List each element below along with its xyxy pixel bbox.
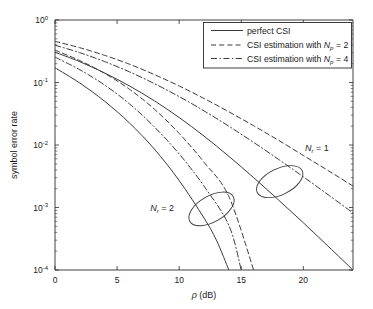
y-tick-exponent-0: 0 [45, 15, 49, 21]
y-tick-base-4: 10 [33, 265, 43, 275]
legend-label-2: CSI estimation with Np = 4 [247, 54, 348, 65]
x-tick-label-3: 15 [237, 275, 247, 285]
y-tick-base-0: 10 [35, 15, 45, 25]
y-tick-base-1: 10 [33, 78, 43, 88]
legend-suffix-2: = 4 [334, 54, 349, 64]
y-axis-label: symbol error rate [9, 111, 19, 179]
y-tick-label-4: 10-4 [33, 265, 48, 276]
y-tick-exponent-3: -3 [43, 202, 49, 208]
y-axis-tick-labels: 10010-110-210-310-4 [33, 15, 48, 276]
y-tick-label-1: 10-1 [33, 77, 48, 88]
chart-figure: 05101520 10010-110-210-310-4 ρ (dB) symb… [0, 0, 373, 309]
y-tick-label-2: 10-2 [33, 140, 48, 151]
y-tick-exponent-4: -4 [43, 265, 49, 271]
annotation-rest-nr-1: = 1 [314, 143, 329, 153]
y-tick-label-0: 100 [35, 15, 48, 26]
legend-suffix-1: = 2 [334, 40, 349, 50]
x-tick-label-2: 10 [174, 275, 184, 285]
legend: perfect CSICSI estimation with Np = 2CSI… [204, 23, 352, 69]
symbol-error-rate-plot: 05101520 10010-110-210-310-4 ρ (dB) symb… [0, 0, 373, 309]
annotation-rest-nr-2: = 2 [159, 203, 174, 213]
legend-text-1: CSI estimation with [247, 40, 324, 50]
x-tick-label-0: 0 [53, 275, 58, 285]
legend-text-0: perfect CSI [247, 26, 290, 36]
y-tick-exponent-2: -2 [43, 140, 49, 146]
svg-text:ρ (dB): ρ (dB) [191, 290, 217, 300]
x-axis-title: ρ (dB) [191, 290, 217, 300]
x-tick-label-1: 5 [115, 275, 120, 285]
annotation-label-nr-1: Nr = 1 [305, 143, 329, 154]
annotation-label-nr-2: Nr = 2 [150, 203, 174, 214]
x-tick-label-4: 20 [299, 275, 309, 285]
legend-label-1: CSI estimation with Np = 2 [247, 40, 348, 51]
x-axis-tick-labels: 05101520 [53, 275, 309, 285]
y-tick-label-3: 10-3 [33, 202, 48, 213]
legend-label-0: perfect CSI [247, 26, 290, 36]
y-tick-base-3: 10 [33, 203, 43, 213]
legend-text-2: CSI estimation with [247, 54, 324, 64]
y-tick-exponent-1: -1 [43, 77, 49, 83]
x-axis-unit: (dB) [197, 290, 217, 300]
y-tick-base-2: 10 [33, 140, 43, 150]
y-axis-title: symbol error rate [9, 111, 19, 179]
